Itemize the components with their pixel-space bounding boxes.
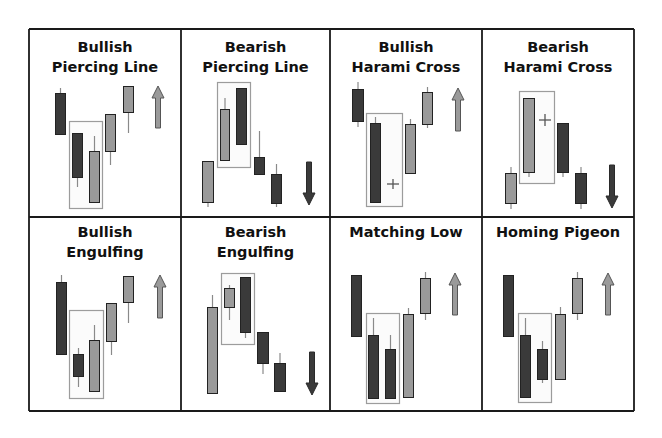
candle-body bbox=[225, 289, 235, 308]
candle-body bbox=[255, 158, 265, 175]
candle-body bbox=[521, 336, 531, 398]
panel-title-line: Harami Cross bbox=[504, 59, 613, 75]
candle-body bbox=[353, 90, 364, 122]
candle-body bbox=[208, 308, 218, 394]
panel-title-line: Piercing Line bbox=[202, 59, 308, 75]
bullish-candle bbox=[423, 87, 433, 128]
panel-title-line: Bullish bbox=[378, 39, 433, 55]
panel-title-line: Bullish bbox=[77, 224, 132, 240]
candle-body bbox=[421, 279, 431, 314]
candle-body bbox=[90, 341, 100, 392]
candle-body bbox=[203, 162, 214, 203]
bearish-candle bbox=[371, 117, 381, 203]
bearish-candle bbox=[576, 167, 587, 209]
candle-body bbox=[576, 174, 587, 204]
candle-body bbox=[506, 174, 517, 204]
panel-title-line: Bearish bbox=[527, 39, 589, 55]
panel-title: Homing Pigeon bbox=[496, 224, 620, 240]
candle-body bbox=[386, 350, 396, 399]
candle-body bbox=[106, 115, 116, 152]
candle-body bbox=[124, 87, 134, 113]
panel-title-line: Harami Cross bbox=[352, 59, 461, 75]
bearish-candle bbox=[558, 123, 569, 177]
bullish-candle bbox=[404, 308, 414, 398]
candle-body bbox=[573, 279, 583, 314]
candle-body bbox=[56, 94, 66, 135]
bullish-candle bbox=[506, 167, 517, 209]
candle-body bbox=[107, 304, 117, 342]
candle-body bbox=[237, 89, 247, 145]
candle-body bbox=[221, 110, 230, 161]
candle-body bbox=[423, 93, 433, 125]
candle-body bbox=[524, 99, 535, 173]
bearish-candle bbox=[352, 275, 362, 337]
bullish-candle bbox=[524, 98, 535, 177]
candle-body bbox=[404, 315, 414, 398]
panel-title-line: Bearish bbox=[225, 224, 287, 240]
panel-title-line: Matching Low bbox=[349, 224, 462, 240]
candle-body bbox=[369, 336, 379, 399]
bullish-candle bbox=[421, 272, 431, 320]
candle-body bbox=[556, 315, 566, 380]
candle-body bbox=[406, 125, 416, 174]
candle-body bbox=[558, 124, 569, 173]
candle-body bbox=[57, 283, 67, 355]
candle-body bbox=[352, 276, 362, 337]
bearish-candle bbox=[237, 88, 247, 145]
candle-body bbox=[258, 333, 269, 364]
candle-body bbox=[538, 350, 548, 380]
bullish-candle bbox=[203, 161, 214, 207]
panel-title-line: Engulfing bbox=[217, 244, 294, 260]
candle-body bbox=[272, 175, 282, 204]
candlestick-patterns-grid: BullishPiercing LineBearishPiercing Line… bbox=[0, 0, 662, 438]
candle-body bbox=[74, 355, 84, 377]
candle-body bbox=[90, 152, 100, 203]
panel-title-line: Homing Pigeon bbox=[496, 224, 620, 240]
candle-body bbox=[241, 278, 251, 333]
bullish-candle bbox=[208, 295, 218, 394]
candle-body bbox=[504, 276, 514, 337]
candle-body bbox=[371, 124, 381, 203]
bullish-candle bbox=[556, 307, 566, 380]
panel-title-line: Bullish bbox=[77, 39, 132, 55]
bearish-candle bbox=[57, 275, 67, 355]
candle-body bbox=[275, 364, 286, 392]
bearish-candle bbox=[241, 277, 251, 338]
panel-title-line: Piercing Line bbox=[52, 59, 158, 75]
candle-body bbox=[124, 277, 134, 303]
panel-title: Matching Low bbox=[349, 224, 462, 240]
bearish-candle bbox=[56, 88, 66, 135]
bullish-candle bbox=[406, 119, 416, 174]
bullish-candle bbox=[573, 272, 583, 320]
panel-title-line: Engulfing bbox=[66, 244, 143, 260]
panel-title-line: Bearish bbox=[225, 39, 287, 55]
bearish-candle bbox=[504, 275, 514, 337]
candle-body bbox=[73, 134, 83, 178]
